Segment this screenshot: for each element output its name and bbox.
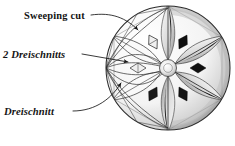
rosette-figure: Sweeping cut 2 Dreischnitts Dreischnitt bbox=[0, 0, 235, 146]
figure-page: Sweeping cut 2 Dreischnitts Dreischnitt bbox=[0, 0, 235, 146]
annotation-labels: Sweeping cut 2 Dreischnitts Dreischnitt bbox=[2, 10, 85, 117]
rosette-disk bbox=[106, 4, 230, 132]
label-sweeping-cut: Sweeping cut bbox=[24, 10, 85, 21]
center-hub bbox=[160, 60, 177, 77]
label-two-dreischnitts: 2 Dreischnitts bbox=[2, 49, 65, 60]
label-dreischnitt: Dreischnitt bbox=[3, 106, 55, 117]
